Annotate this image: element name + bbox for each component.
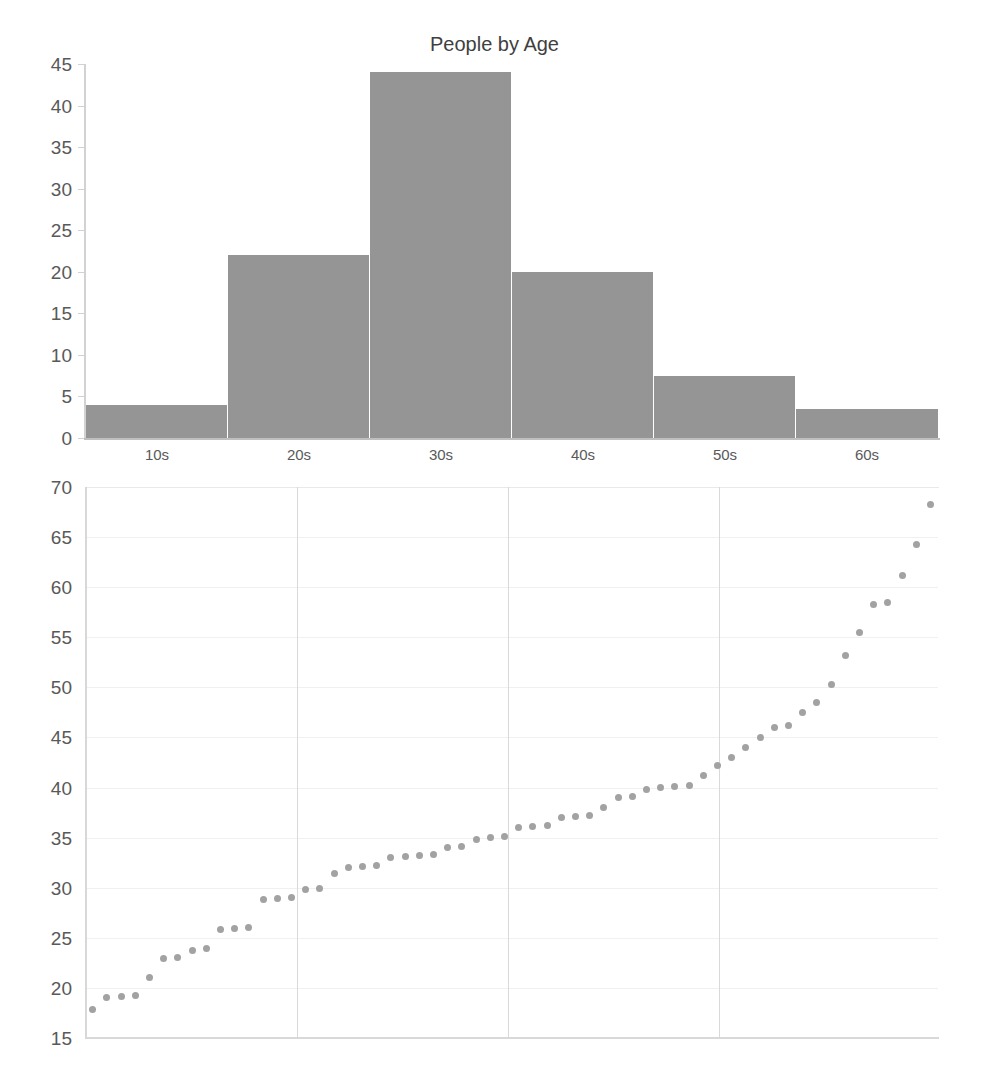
histogram-y-tick-label: 35	[10, 138, 72, 157]
scatter-point	[799, 709, 806, 716]
scatter-y-tick-label: 70	[10, 478, 72, 497]
scatter-horizontal-gridline	[86, 938, 938, 939]
histogram-y-tick-label: 10	[10, 346, 72, 365]
histogram-bar	[654, 376, 796, 438]
scatter-point	[742, 744, 749, 751]
histogram-bar	[796, 409, 938, 438]
scatter-horizontal-gridline	[86, 988, 938, 989]
scatter-horizontal-gridline	[86, 888, 938, 889]
scatter-y-tick-label: 45	[10, 728, 72, 747]
histogram-y-tick-label: 40	[10, 97, 72, 116]
histogram-x-axis-line	[84, 438, 940, 440]
scatter-point	[174, 954, 181, 961]
scatter-point	[288, 894, 295, 901]
scatter-point	[274, 895, 281, 902]
scatter-point	[927, 501, 934, 508]
scatter-chart: 152025303540455055606570	[0, 470, 989, 1085]
scatter-point	[345, 864, 352, 871]
histogram-y-tick-label: 20	[10, 263, 72, 282]
scatter-y-tick-label: 25	[10, 929, 72, 948]
scatter-point	[728, 754, 735, 761]
histogram-y-tick-label: 5	[10, 387, 72, 406]
scatter-point	[359, 863, 366, 870]
scatter-y-tick-label: 20	[10, 979, 72, 998]
scatter-point	[629, 793, 636, 800]
scatter-y-tick-label: 65	[10, 528, 72, 547]
scatter-y-tick-label: 35	[10, 829, 72, 848]
scatter-point	[373, 862, 380, 869]
histogram-x-tick-label: 30s	[370, 447, 512, 462]
histogram-y-tick-label: 25	[10, 221, 72, 240]
scatter-point	[813, 699, 820, 706]
scatter-point	[572, 813, 579, 820]
histogram-chart: People by Age 051015202530354045 10s20s3…	[0, 0, 989, 470]
scatter-y-tick-label: 55	[10, 628, 72, 647]
scatter-point	[402, 853, 409, 860]
histogram-x-tick-label: 20s	[228, 447, 370, 462]
scatter-point	[89, 1006, 96, 1013]
scatter-point	[671, 783, 678, 790]
scatter-point	[416, 852, 423, 859]
scatter-point	[260, 896, 267, 903]
histogram-plot-area	[86, 64, 938, 438]
scatter-point	[331, 870, 338, 877]
histogram-y-axis-labels: 051015202530354045	[0, 0, 72, 470]
scatter-point	[316, 885, 323, 892]
scatter-point	[899, 572, 906, 579]
scatter-horizontal-gridline	[86, 687, 938, 688]
scatter-point	[643, 786, 650, 793]
scatter-point	[245, 924, 252, 931]
scatter-horizontal-gridline	[86, 737, 938, 738]
scatter-point	[686, 782, 693, 789]
scatter-vertical-gridline	[508, 487, 509, 1038]
histogram-bar	[86, 405, 228, 438]
scatter-point	[785, 722, 792, 729]
scatter-horizontal-gridline	[86, 838, 938, 839]
scatter-point	[870, 601, 877, 608]
scatter-point	[657, 784, 664, 791]
scatter-point	[189, 947, 196, 954]
histogram-y-tick-label: 15	[10, 304, 72, 323]
histogram-bar	[228, 255, 370, 438]
scatter-y-axis-line	[85, 487, 87, 1039]
scatter-point	[387, 854, 394, 861]
histogram-x-axis-labels: 10s20s30s40s50s60s	[0, 447, 989, 470]
scatter-point	[714, 762, 721, 769]
scatter-point	[615, 794, 622, 801]
scatter-horizontal-gridline	[86, 637, 938, 638]
scatter-point	[586, 812, 593, 819]
scatter-point	[203, 945, 210, 952]
histogram-x-tick-label: 50s	[654, 447, 796, 462]
scatter-point	[118, 993, 125, 1000]
scatter-horizontal-gridline	[86, 537, 938, 538]
scatter-point	[828, 681, 835, 688]
scatter-point	[302, 886, 309, 893]
scatter-point	[146, 974, 153, 981]
scatter-y-axis-labels: 152025303540455055606570	[0, 470, 72, 1085]
scatter-point	[771, 724, 778, 731]
scatter-point	[700, 772, 707, 779]
scatter-point	[458, 843, 465, 850]
scatter-point	[884, 599, 891, 606]
histogram-x-tick-label: 60s	[796, 447, 938, 462]
histogram-x-tick-label: 40s	[512, 447, 654, 462]
scatter-point	[103, 994, 110, 1001]
histogram-y-tick-label: 0	[10, 429, 72, 448]
scatter-y-tick-label: 40	[10, 779, 72, 798]
scatter-point	[558, 814, 565, 821]
histogram-y-tick-label: 30	[10, 180, 72, 199]
histogram-x-tick-label: 10s	[86, 447, 228, 462]
scatter-point	[473, 836, 480, 843]
histogram-bar	[370, 72, 512, 438]
scatter-point	[217, 926, 224, 933]
scatter-y-tick-label: 30	[10, 879, 72, 898]
scatter-point	[842, 652, 849, 659]
scatter-plot-area	[86, 487, 938, 1038]
scatter-point	[430, 851, 437, 858]
scatter-horizontal-gridline	[86, 788, 938, 789]
scatter-point	[515, 824, 522, 831]
scatter-y-tick-label: 60	[10, 578, 72, 597]
scatter-point	[529, 823, 536, 830]
scatter-point	[913, 541, 920, 548]
histogram-y-tick-label: 45	[10, 55, 72, 74]
